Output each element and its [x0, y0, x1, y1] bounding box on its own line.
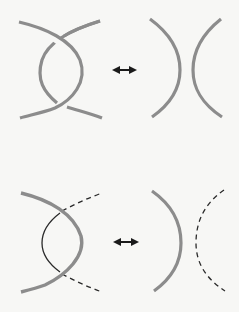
thick-arc — [152, 191, 181, 291]
right-arc — [193, 19, 222, 117]
thin-arc — [42, 213, 60, 272]
strand-under-tail — [67, 107, 102, 118]
dashed-lower — [62, 274, 102, 292]
knot-diagram — [0, 0, 239, 312]
top-left-tangle — [19, 21, 102, 118]
diagram-canvas — [0, 0, 239, 312]
dashed-upper — [62, 193, 102, 211]
dashed-arc — [196, 190, 225, 291]
bottom-left-tangle — [21, 193, 102, 292]
top-right-arcs — [150, 19, 222, 117]
bottom-right-arcs — [152, 190, 225, 291]
left-arc — [150, 19, 180, 117]
thick-arc — [21, 193, 82, 292]
